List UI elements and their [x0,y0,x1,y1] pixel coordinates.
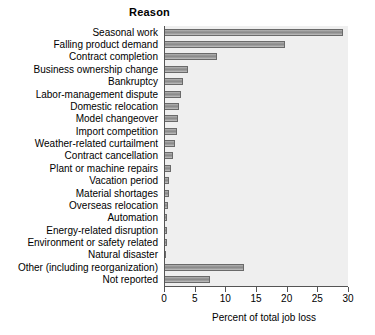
category-label: Environment or safety related [0,236,162,248]
bar-row [165,187,348,199]
bar [165,190,169,197]
category-label: Business ownership change [0,63,162,75]
bar-row [165,100,348,112]
bar [165,276,210,283]
bar-row [165,249,348,261]
bar [165,177,169,184]
bars-layer [165,26,348,286]
bar [165,264,244,271]
bar-row [165,212,348,224]
category-label: Vacation period [0,175,162,187]
category-label: Not reported [0,274,162,286]
bar-row [165,88,348,100]
x-tick-label: 20 [281,293,292,304]
category-label: Contract cancellation [0,150,162,162]
category-label: Bankruptcy [0,76,162,88]
bar [165,214,167,221]
x-tick [164,287,165,292]
category-label: Contract completion [0,51,162,63]
bar [165,41,285,48]
bar-chart: Reason Seasonal workFalling product dema… [0,0,375,335]
chart-title: Reason [0,6,170,18]
bar-row [165,125,348,137]
bar-row [165,162,348,174]
category-label: Model changeover [0,113,162,125]
bar [165,53,217,60]
bar [165,103,179,110]
x-axis: 051015202530 [164,286,348,292]
bar [165,128,177,135]
category-label: Import competition [0,125,162,137]
category-axis: Seasonal workFalling product demandContr… [0,26,162,286]
x-tick-label: 15 [250,293,261,304]
bar-row [165,274,348,286]
category-label: Material shortages [0,187,162,199]
bar-row [165,261,348,273]
bar-row [165,26,348,38]
category-label: Automation [0,212,162,224]
bar-row [165,51,348,63]
category-label: Overseas relocation [0,199,162,211]
x-tick-label: 10 [220,293,231,304]
x-tick [287,287,288,292]
bar-row [165,150,348,162]
x-tick [317,287,318,292]
bar-row [165,137,348,149]
x-tick [348,287,349,292]
bar [165,152,173,159]
bar [165,140,175,147]
bar-row [165,236,348,248]
bar-row [165,199,348,211]
x-tick-label: 25 [312,293,323,304]
bar [165,91,181,98]
bar [165,239,167,246]
x-tick-label: 30 [342,293,353,304]
bar [165,66,188,73]
bar [165,115,178,122]
category-label: Falling product demand [0,38,162,50]
x-tick-label: 0 [161,293,167,304]
bar-row [165,175,348,187]
bar-row [165,76,348,88]
x-tick [195,287,196,292]
bar [165,227,167,234]
x-axis-title: Percent of total job loss [164,312,364,323]
x-tick [225,287,226,292]
bar [165,202,168,209]
bar-row [165,113,348,125]
category-label: Other (including reorganization) [0,261,162,273]
category-label: Energy-related disruption [0,224,162,236]
bar-row [165,224,348,236]
bar [165,78,183,85]
bar-row [165,63,348,75]
bar [165,251,166,258]
bar [165,29,343,36]
category-label: Natural disaster [0,249,162,261]
category-label: Seasonal work [0,26,162,38]
category-label: Weather-related curtailment [0,137,162,149]
bar-row [165,38,348,50]
x-tick-label: 5 [192,293,198,304]
x-tick [256,287,257,292]
bar [165,165,171,172]
category-label: Domestic relocation [0,100,162,112]
category-label: Labor-management dispute [0,88,162,100]
category-label: Plant or machine repairs [0,162,162,174]
plot-area [164,26,348,286]
